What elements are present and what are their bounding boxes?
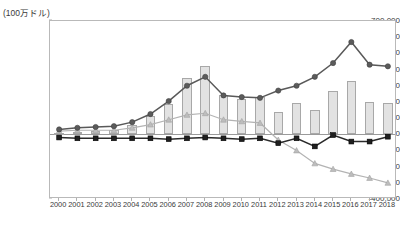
circle-series-marker xyxy=(203,74,208,79)
square-series-marker xyxy=(349,139,354,144)
x-axis-tick-label: 2009 xyxy=(214,200,230,209)
circle-series-marker xyxy=(257,95,262,100)
square-series-marker xyxy=(75,136,80,141)
line-series-layer xyxy=(50,21,395,197)
square-series-marker xyxy=(185,136,190,141)
x-axis-tick-mark xyxy=(168,198,169,201)
x-axis-tick-label: 2017 xyxy=(360,200,376,209)
x-axis-tick-label: 2005 xyxy=(141,200,157,209)
square-series-marker xyxy=(294,136,299,141)
chart-title-clipped xyxy=(120,0,380,3)
x-axis-tick-mark xyxy=(332,198,333,201)
circle-series-marker xyxy=(166,99,171,104)
x-axis-tick-mark xyxy=(277,198,278,201)
plot-inner xyxy=(50,21,395,197)
x-axis-tick-label: 2011 xyxy=(251,200,267,209)
circle-series-marker xyxy=(385,64,390,69)
plot-area xyxy=(49,20,396,198)
x-axis-tick-label: 2010 xyxy=(233,200,249,209)
x-axis-tick-mark xyxy=(204,198,205,201)
square-series-marker xyxy=(385,134,390,139)
x-axis-tick-label: 2012 xyxy=(269,200,285,209)
x-axis-tick-mark xyxy=(223,198,224,201)
x-axis-tick-mark xyxy=(131,198,132,201)
square-series-marker xyxy=(276,141,281,146)
circle-series-marker xyxy=(276,88,281,93)
triangle-series-marker xyxy=(294,148,300,153)
circle-series-marker xyxy=(239,94,244,99)
x-axis-tick-label: 2001 xyxy=(68,200,84,209)
x-axis-tick-mark xyxy=(296,198,297,201)
circle-series-marker xyxy=(75,125,80,130)
chart-root: (100万ドル) 700,000600,000500,000400,000300… xyxy=(0,0,400,225)
square-series-marker xyxy=(112,136,117,141)
circle-series-marker xyxy=(111,124,116,129)
x-axis-tick-mark xyxy=(241,198,242,201)
x-axis-tick-mark xyxy=(76,198,77,201)
x-axis-tick-mark xyxy=(259,198,260,201)
x-axis-tick-label: 2007 xyxy=(178,200,194,209)
square-series-marker xyxy=(93,136,98,141)
x-axis-tick-mark xyxy=(186,198,187,201)
square-series-marker xyxy=(130,136,135,141)
x-axis-tick-label: 2015 xyxy=(324,200,340,209)
x-axis-tick-label: 2002 xyxy=(86,200,102,209)
x-axis-tick-mark xyxy=(95,198,96,201)
circle-series-marker xyxy=(57,127,62,132)
square-series-marker xyxy=(367,139,372,144)
x-axis-tick-label: 2008 xyxy=(196,200,212,209)
circle-series-marker xyxy=(349,39,354,44)
x-axis-tick-label: 2014 xyxy=(306,200,322,209)
x-axis-tick-label: 2004 xyxy=(123,200,139,209)
square-series-marker xyxy=(203,135,208,140)
x-axis-tick-label: 2016 xyxy=(342,200,358,209)
circle-series-marker xyxy=(130,120,135,125)
x-axis-tick-label: 2006 xyxy=(159,200,175,209)
x-axis-tick-mark xyxy=(149,198,150,201)
circle-series-marker xyxy=(312,74,317,79)
y-axis-unit-label: (100万ドル) xyxy=(3,6,50,18)
x-axis-tick-label: 2018 xyxy=(379,200,395,209)
x-axis-tick-mark xyxy=(314,198,315,201)
circle-series-marker xyxy=(294,83,299,88)
circle-series-marker xyxy=(221,93,226,98)
circle-series-marker xyxy=(148,111,153,116)
square-series-marker xyxy=(239,137,244,142)
square-series-marker xyxy=(258,136,263,141)
square-series-marker xyxy=(166,137,171,142)
x-axis-tick-label: 2013 xyxy=(287,200,303,209)
square-series-marker xyxy=(148,136,153,141)
circle-series-marker xyxy=(367,62,372,67)
x-axis-tick-mark xyxy=(58,198,59,201)
x-axis-tick-label: 2003 xyxy=(105,200,121,209)
square-series-marker xyxy=(57,135,62,140)
circle-series-marker xyxy=(330,60,335,65)
triangle-series-line xyxy=(59,113,388,183)
square-series-marker xyxy=(312,144,317,149)
x-axis-tick-mark xyxy=(113,198,114,201)
x-axis-tick-mark xyxy=(350,198,351,201)
x-axis-tick-label: 2000 xyxy=(50,200,66,209)
circle-series-marker xyxy=(184,83,189,88)
square-series-marker xyxy=(221,136,226,141)
circle-series-marker xyxy=(93,124,98,129)
square-series-marker xyxy=(331,133,336,138)
x-axis-tick-mark xyxy=(369,198,370,201)
x-axis-tick-mark xyxy=(387,198,388,201)
